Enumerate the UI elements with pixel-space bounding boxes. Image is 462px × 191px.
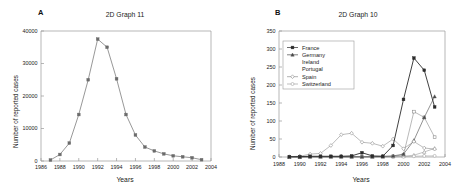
svg-text:2000: 2000 (167, 164, 179, 170)
svg-text:100: 100 (267, 118, 276, 124)
svg-text:1988: 1988 (273, 161, 285, 167)
svg-text:150: 150 (267, 100, 276, 106)
panel-a-plot: 0100002000030000400001986198819901992199… (0, 0, 231, 191)
svg-text:2002: 2002 (186, 164, 198, 170)
svg-text:1998: 1998 (148, 164, 160, 170)
svg-text:40000: 40000 (23, 28, 38, 34)
svg-text:1992: 1992 (315, 161, 327, 167)
svg-text:250: 250 (267, 64, 276, 70)
svg-text:1992: 1992 (92, 164, 104, 170)
svg-text:1996: 1996 (129, 164, 141, 170)
svg-text:1998: 1998 (377, 161, 389, 167)
svg-text:1994: 1994 (335, 161, 347, 167)
svg-text:350: 350 (267, 28, 276, 34)
svg-text:1994: 1994 (111, 164, 123, 170)
panel-b-plot: 0501001502002503003501988199019921994199… (231, 0, 462, 191)
svg-text:2004: 2004 (439, 161, 451, 167)
legend-label: Switzerland (302, 81, 331, 87)
figure-root: A 2D Graph 11 Number of reported cases Y… (0, 0, 462, 191)
svg-text:30000: 30000 (23, 60, 38, 66)
panel-b: B 2D Graph 10 Number of reported cases Y… (231, 0, 462, 191)
svg-text:0: 0 (35, 158, 38, 164)
svg-text:1996: 1996 (356, 161, 368, 167)
svg-text:1988: 1988 (54, 164, 66, 170)
svg-text:1990: 1990 (294, 161, 306, 167)
svg-text:1986: 1986 (35, 164, 47, 170)
legend-label: Portugal (302, 66, 323, 72)
svg-text:0: 0 (273, 154, 276, 160)
legend-label: Spain (302, 74, 316, 80)
svg-text:300: 300 (267, 46, 276, 52)
svg-text:10000: 10000 (23, 125, 38, 131)
svg-text:2002: 2002 (418, 161, 430, 167)
svg-text:2000: 2000 (398, 161, 410, 167)
svg-text:200: 200 (267, 82, 276, 88)
svg-text:50: 50 (270, 136, 276, 142)
svg-text:20000: 20000 (23, 93, 38, 99)
legend-label: Ireland (302, 59, 319, 65)
svg-text:2004: 2004 (205, 164, 217, 170)
panel-a: A 2D Graph 11 Number of reported cases Y… (0, 0, 231, 191)
svg-text:1990: 1990 (73, 164, 85, 170)
legend-label: Germany (302, 52, 325, 58)
legend-label: France (302, 45, 319, 51)
